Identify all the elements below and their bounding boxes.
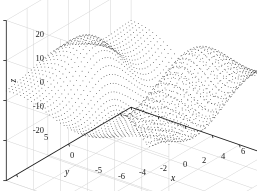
z-tick-label-0: 0 [26, 78, 44, 87]
x-axis-title: x [171, 174, 175, 184]
y-tick-label-neg5: -5 [95, 166, 102, 175]
z-tick-label-neg20: -20 [22, 126, 44, 135]
x-tick-label-neg2: -2 [160, 164, 167, 173]
x-tick-label-2: 2 [202, 156, 206, 165]
surface-plot-figure: 20 10 0 -10 -20 z 5 0 -5 y -6 -4 -2 0 2 … [0, 0, 257, 191]
y-axis-title: y [65, 168, 69, 178]
z-tick-label-20: 20 [26, 30, 44, 39]
z-tick-label-neg10: -10 [22, 102, 44, 111]
z-tick-label-10: 10 [26, 54, 44, 63]
y-tick-label-0: 0 [70, 151, 74, 160]
y-tick-label-5: 5 [44, 133, 48, 142]
x-tick-label-neg6: -6 [118, 172, 125, 181]
x-tick-label-4: 4 [221, 152, 225, 161]
z-axis-title: z [9, 79, 19, 83]
x-tick-label-neg4: -4 [139, 168, 146, 177]
x-tick-label-6: 6 [241, 147, 245, 156]
x-tick-label-0: 0 [183, 160, 187, 169]
